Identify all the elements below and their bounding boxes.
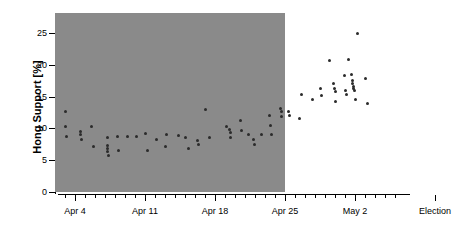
scatter-chart: Hong Support [%] 0510152025 Apr 4Apr 11A… [0,0,459,242]
data-point [165,133,168,136]
data-point [350,73,353,76]
data-point [334,100,337,103]
y-axis-title: Hong Support [%] [31,22,43,192]
data-point [208,136,211,139]
x-tick-label: Apr 11 [110,206,180,216]
y-tick-label: 10 [0,123,61,133]
x-tick-mark-major [355,195,356,201]
data-point [80,138,83,141]
x-tick-mark-minor [335,195,336,198]
plot-area [58,13,410,192]
y-tick-label: 15 [0,92,61,102]
data-point [106,150,109,153]
x-tick-label: Apr 4 [40,206,110,216]
data-point [252,138,255,141]
data-point [184,136,187,139]
data-point [197,143,200,146]
data-point [90,125,93,128]
x-tick-mark-minor [195,195,196,198]
data-point [354,98,357,101]
x-tick-mark-major [435,195,436,201]
x-tick-mark-major [145,195,146,201]
x-tick-mark-minor [265,195,266,198]
data-point [353,89,356,92]
data-point [92,145,95,148]
x-tick-mark-minor [385,195,386,198]
x-tick-mark-minor [95,195,96,198]
x-tick-mark-minor [205,195,206,198]
data-point [229,131,232,134]
x-tick-mark-minor [305,195,306,198]
y-tick-label: 0 [0,187,61,197]
x-tick-mark-minor [375,195,376,198]
data-point [311,98,314,101]
data-point [146,149,149,152]
x-axis-line [58,194,410,195]
data-point [239,119,242,122]
data-point [65,135,68,138]
data-point [345,93,348,96]
data-point [64,110,67,113]
x-tick-mark-minor [275,195,276,198]
x-tick-mark-minor [155,195,156,198]
x-tick-mark-minor [65,195,66,198]
x-tick-mark-minor [295,195,296,198]
data-point [269,124,272,127]
data-point [117,149,120,152]
x-tick-mark-minor [345,195,346,198]
data-point [280,115,283,118]
data-point [164,145,167,148]
data-point [270,133,273,136]
x-tick-mark-minor [365,195,366,198]
x-tick-mark-major [285,195,286,201]
data-point [319,87,322,90]
data-point [187,147,190,150]
data-point [204,108,207,111]
data-point [356,32,359,35]
data-point [253,143,256,146]
data-point [135,135,138,138]
x-tick-mark-minor [85,195,86,198]
x-tick-mark-minor [105,195,106,198]
x-tick-label: Apr 18 [180,206,250,216]
data-point [64,125,67,128]
data-point [196,139,199,142]
x-tick-mark-minor [115,195,116,198]
data-point [225,125,228,128]
data-point [268,114,271,117]
data-point [240,129,243,132]
x-tick-mark-minor [315,195,316,198]
data-point [144,132,147,135]
data-point [155,138,158,141]
data-point [229,136,232,139]
x-tick-mark-minor [395,195,396,198]
data-point [177,134,180,137]
x-tick-mark-minor [125,195,126,198]
data-point [343,74,346,77]
data-point [351,79,354,82]
x-tick-mark-minor [175,195,176,198]
data-point [288,114,291,117]
y-tick-label: 5 [0,155,61,165]
x-tick-label: Election [400,206,459,216]
x-tick-mark-minor [165,195,166,198]
data-point-layer [58,13,410,192]
x-tick-mark-minor [245,195,246,198]
x-tick-mark-major [215,195,216,201]
data-point [366,102,369,105]
x-tick-mark-minor [255,195,256,198]
x-tick-label: May 2 [320,206,390,216]
y-tick-label: 25 [0,28,61,38]
data-point [347,58,350,61]
data-point [344,89,347,92]
x-tick-mark-minor [185,195,186,198]
data-point [79,133,82,136]
data-point [116,135,119,138]
x-tick-mark-minor [235,195,236,198]
data-point [280,110,283,113]
data-point [300,93,303,96]
data-point [260,133,263,136]
data-point [320,94,323,97]
x-tick-label: Apr 25 [250,206,320,216]
data-point [107,154,110,157]
